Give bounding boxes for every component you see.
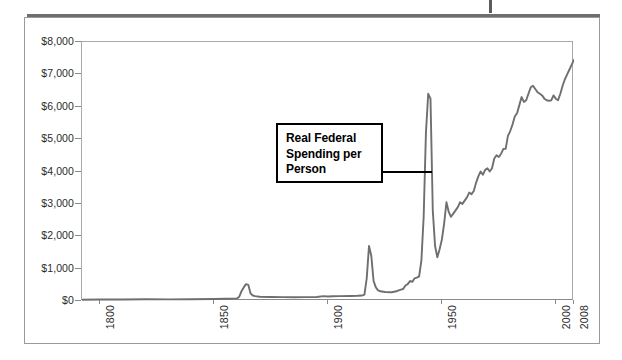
y-tick-mark (75, 203, 81, 204)
y-tick-mark (75, 41, 81, 42)
y-tick-label: $0 (62, 295, 74, 305)
y-tick-mark (75, 138, 81, 139)
x-tick-label: 1850 (218, 305, 230, 329)
y-tick-mark (75, 73, 81, 74)
y-tick-label: $5,000 (41, 133, 74, 143)
y-tick-mark (75, 268, 81, 269)
y-tick-label: $4,000 (41, 166, 74, 176)
y-tick-label: $7,000 (41, 68, 74, 78)
x-tick-label: 1950 (446, 305, 458, 329)
y-tick-mark (75, 106, 81, 107)
x-tick-label: 1900 (332, 305, 344, 329)
annotation-callout-box: Real Federal Spending per Person (276, 123, 383, 183)
y-tick-label: $1,000 (41, 263, 74, 273)
y-tick-mark (75, 235, 81, 236)
y-tick-label: $8,000 (41, 36, 74, 46)
y-tick-label: $6,000 (41, 101, 74, 111)
x-tick-label: 1800 (104, 305, 116, 329)
annotation-label: Real Federal Spending per Person (286, 131, 381, 178)
y-axis: $0$1,000$2,000$3,000$4,000$5,000$6,000$7… (14, 0, 74, 360)
x-tick-label: 2008 (578, 305, 590, 329)
y-tick-mark (75, 300, 81, 301)
scan-artifact-tick (489, 0, 492, 13)
y-tick-label: $2,000 (41, 230, 74, 240)
x-tick-label: 2000 (560, 305, 572, 329)
y-tick-label: $3,000 (41, 198, 74, 208)
annotation-leader-line (383, 171, 432, 173)
y-tick-mark (75, 171, 81, 172)
